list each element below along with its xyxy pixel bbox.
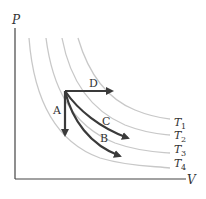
svg-text:3: 3	[181, 149, 186, 158]
process-a-label: A	[52, 104, 62, 117]
v-axis-label: V	[187, 173, 197, 187]
isotherm-t4	[29, 38, 170, 168]
isotherm-label-t3: T 3	[174, 143, 186, 158]
isotherm-label-t2: T 2	[174, 129, 186, 144]
p-axis-label: P	[11, 13, 21, 27]
svg-text:2: 2	[181, 135, 186, 144]
svg-text:1: 1	[181, 122, 186, 131]
process-b-label: B	[100, 132, 108, 145]
svg-text:4: 4	[181, 163, 186, 172]
process-d-label: D	[89, 77, 98, 90]
pv-diagram: P V D A C B T 1 T 2 T 3 T 4	[0, 0, 206, 199]
process-c-label: C	[102, 115, 110, 128]
isotherm-label-t4: T 4	[174, 157, 186, 172]
